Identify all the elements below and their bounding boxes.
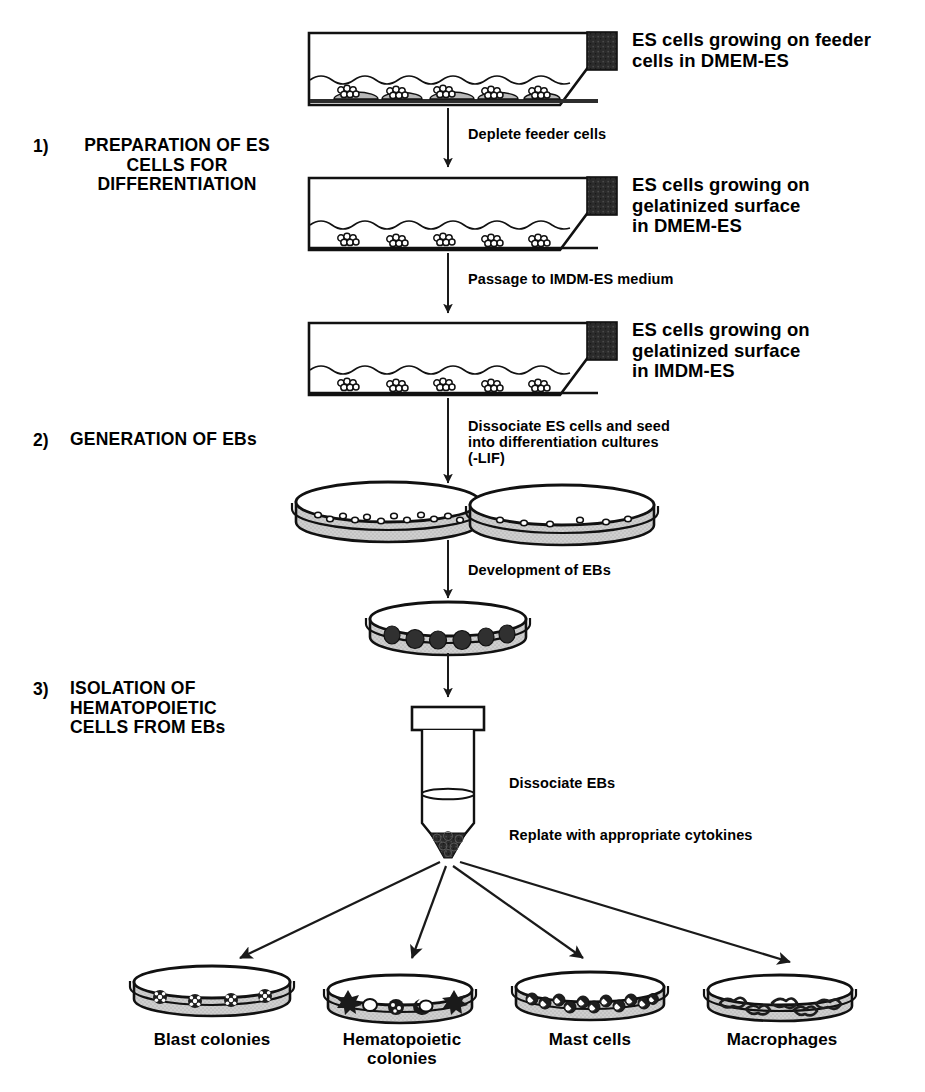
step-2-label: GENERATION OF EBs: [70, 430, 310, 450]
culture-flask-gelatin-imdm: [309, 322, 617, 395]
flow-label-dissociate-and-seed: Dissociate ES cells and seed into differ…: [468, 418, 698, 467]
flow-label-passage-to-imdm: Passage to IMDM-ES medium: [468, 271, 674, 287]
fanout-arrows: [240, 862, 790, 962]
diagram-canvas: 1) PREPARATION OF ES CELLS FOR DIFFERENT…: [0, 0, 925, 1092]
step-1-number: 1): [33, 136, 49, 157]
output-label-hematopoietic-colonies: Hematopoietic colonies: [312, 1030, 492, 1068]
step-3-number: 3): [33, 679, 49, 700]
output-label-macrophages: Macrophages: [692, 1030, 872, 1049]
seeding-dish-right: [466, 485, 658, 545]
output-label-blast-colonies: Blast colonies: [122, 1030, 302, 1049]
step-2-number: 2): [33, 430, 49, 451]
seeding-dish-left: [292, 482, 484, 542]
flow-label-dissociate-ebs: Dissociate EBs: [509, 775, 615, 791]
arrow-to-hematopoietic-colonies: [412, 866, 446, 958]
vessel-label-feeder: ES cells growing on feeder cells in DMEM…: [632, 30, 922, 71]
vessel-label-gelatin-dmem: ES cells growing on gelatinized surface …: [632, 175, 922, 237]
output-dish-blast-colonies: [130, 966, 294, 1016]
output-dish-mast-cells: [512, 972, 668, 1020]
output-dish-macrophages: [704, 975, 856, 1021]
culture-flask-feeder: [309, 32, 617, 105]
output-dish-hematopoietic-colonies: [324, 975, 476, 1023]
flow-label-deplete-feeder-cells: Deplete feeder cells: [468, 126, 606, 142]
flow-label-replate-with-cytokines: Replate with appropriate cytokines: [509, 827, 753, 843]
culture-flask-gelatin-dmem: [309, 177, 617, 250]
vessel-label-gelatin-imdm: ES cells growing on gelatinized surface …: [632, 320, 922, 382]
step-1-label: PREPARATION OF ES CELLS FOR DIFFERENTIAT…: [62, 136, 292, 195]
centrifuge-tube: [412, 707, 484, 858]
eb-dish: [366, 602, 530, 655]
arrow-to-macrophages: [460, 862, 790, 962]
flow-label-development-of-ebs: Development of EBs: [468, 562, 611, 578]
step-3-label: ISOLATION OF HEMATOPOIETIC CELLS FROM EB…: [70, 679, 310, 738]
arrow-to-blast-colonies: [240, 862, 440, 958]
output-label-mast-cells: Mast cells: [505, 1030, 675, 1049]
